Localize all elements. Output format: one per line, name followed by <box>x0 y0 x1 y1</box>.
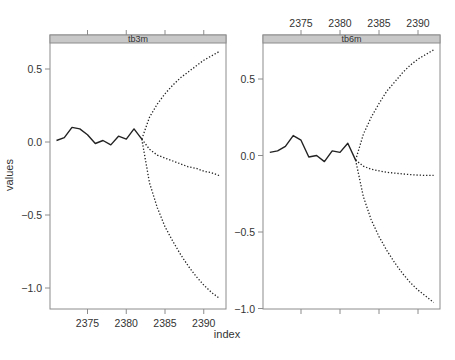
x-axis-label: index <box>214 328 241 340</box>
panel-tb6m: tb6m−1.0−0.50.00.52375238023852390 <box>234 17 440 315</box>
panel-frame <box>50 35 226 309</box>
y-tick-label: −1.0 <box>21 282 42 294</box>
y-axis-label: values <box>3 159 15 191</box>
y-tick-label: −0.5 <box>21 209 42 221</box>
x-tick-label: 2385 <box>153 317 177 329</box>
panel-tb3m: tb3m−1.0−0.50.00.52375238023852390 <box>21 30 226 329</box>
y-tick-label: −1.0 <box>234 303 255 315</box>
lattice-chart: tb3m−1.0−0.50.00.52375238023852390 tb6m−… <box>0 0 455 360</box>
y-tick-label: 0.0 <box>27 136 42 148</box>
strip-label: tb6m <box>341 34 361 44</box>
x-tick-label: 2375 <box>76 317 100 329</box>
x-tick-label: 2375 <box>289 17 313 29</box>
y-tick-label: −0.5 <box>234 226 255 238</box>
x-tick-label: 2380 <box>115 317 139 329</box>
panel-frame <box>263 35 440 309</box>
y-tick-label: 0.0 <box>240 150 255 162</box>
y-tick-label: 0.5 <box>240 73 255 85</box>
x-tick-label: 2390 <box>406 17 430 29</box>
y-tick-label: 0.5 <box>27 63 42 75</box>
x-tick-label: 2385 <box>367 17 391 29</box>
x-tick-label: 2390 <box>192 317 216 329</box>
x-tick-label: 2380 <box>328 17 352 29</box>
strip-label: tb3m <box>128 34 148 44</box>
